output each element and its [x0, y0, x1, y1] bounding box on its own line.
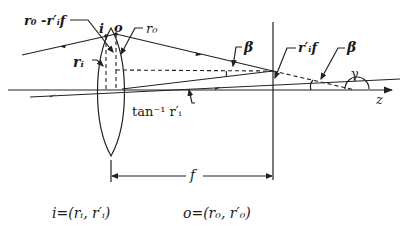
label-o: o — [114, 20, 123, 35]
label-ri: rᵢ — [73, 54, 84, 70]
chief-dashed — [116, 70, 273, 71]
beta-arc-small — [226, 71, 227, 76]
label-focal-length: f — [189, 167, 198, 183]
leader-ri — [92, 60, 103, 66]
label-i: i — [99, 21, 104, 36]
leader-rif — [275, 48, 296, 78]
beta-arc — [310, 80, 313, 90]
extension-dashed — [273, 71, 355, 90]
label-gamma: γ — [351, 66, 359, 81]
leader-r0 — [121, 28, 143, 54]
point-i — [104, 34, 108, 38]
lens-diagram: r₀ -r′ᵢf i o r₀ rᵢ β r′ᵢf β γ z tan⁻¹ r′… — [0, 0, 403, 232]
leader-beta2 — [321, 48, 345, 79]
label-focal-point: r′ᵢf — [298, 40, 319, 55]
equation-i: i=(rᵢ, r′ᵢ) — [52, 205, 110, 221]
ray-arrow-icon — [60, 45, 66, 49]
label-arctan: tan⁻¹ r′ᵢ — [132, 104, 182, 119]
equation-o: o=(r₀, r′₀) — [183, 205, 251, 221]
label-r0: r₀ — [146, 21, 158, 36]
leader-arctan — [189, 90, 195, 103]
label-z-axis: z — [375, 92, 383, 107]
label-beta-2: β — [346, 39, 357, 55]
label-r0-rif: r₀ -r′ᵢf — [24, 13, 68, 28]
label-beta-1: β — [243, 39, 254, 55]
